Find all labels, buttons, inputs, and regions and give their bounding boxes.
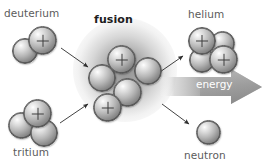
energy-label: energy	[196, 79, 233, 90]
tritium-label: tritium	[13, 147, 49, 158]
deuterium-label: deuterium	[4, 8, 59, 19]
fusion-neutron-sphere-2	[134, 57, 162, 85]
neutron-label: neutron	[184, 150, 226, 161]
arrow-tritium-to-fusion	[60, 104, 88, 123]
fusion-proton-sphere-1	[107, 45, 136, 74]
fusion-label: fusion	[94, 14, 133, 25]
fusion-proton-sphere-2	[93, 93, 122, 122]
helium-proton-sphere-2	[209, 45, 238, 74]
arrow-fusion-to-neutron	[162, 104, 189, 124]
free-neutron-sphere	[196, 120, 221, 145]
helium-label: helium	[188, 9, 224, 20]
fusion-diagram: energy deuterium tritium fusion	[0, 0, 265, 167]
deuterium-proton-sphere	[28, 26, 57, 55]
tritium-proton-sphere	[23, 99, 52, 128]
